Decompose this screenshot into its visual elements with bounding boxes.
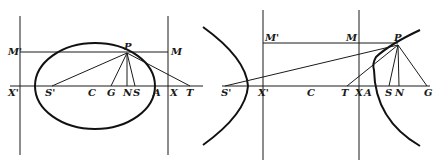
label-x-prime: X'	[257, 87, 269, 98]
label-s-prime: S'	[45, 87, 55, 98]
ellipse-figure: P M' M X' S' C G N S A X T	[7, 16, 203, 155]
label-p: P	[393, 32, 402, 43]
label-s-prime: S'	[221, 87, 231, 98]
tangent-p-t	[127, 53, 190, 86]
label-s: S	[385, 87, 392, 98]
label-g: G	[107, 87, 116, 98]
line-p-sprime	[52, 53, 127, 86]
label-t: T	[341, 87, 350, 98]
label-m-prime: M'	[264, 32, 279, 43]
line-p-g	[111, 53, 127, 86]
label-c: C	[88, 87, 96, 98]
hyperbola-figure: P M' M S' X' C T X A S N G	[203, 10, 433, 160]
label-a: A	[152, 87, 161, 98]
label-c: C	[307, 87, 315, 98]
label-m: M	[170, 46, 183, 57]
label-x: X	[169, 87, 179, 98]
label-m: M	[345, 32, 358, 43]
label-x: X	[354, 87, 364, 98]
line-p-s	[127, 53, 135, 86]
line-p-n	[398, 45, 399, 86]
label-n: N	[394, 87, 405, 98]
conic-sections-diagram: P M' M X' S' C G N S A X T P M' M	[0, 0, 436, 167]
label-g: G	[424, 87, 433, 98]
label-m-prime: M'	[7, 46, 22, 57]
label-p: P	[123, 41, 132, 52]
label-t: T	[186, 87, 195, 98]
label-s: S	[133, 87, 140, 98]
label-a: A	[363, 87, 372, 98]
line-p-g	[398, 45, 427, 86]
label-n: N	[122, 87, 133, 98]
label-x-prime: X'	[7, 87, 19, 98]
